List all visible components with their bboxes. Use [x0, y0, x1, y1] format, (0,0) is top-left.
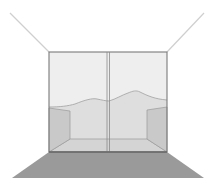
perspective-line-right	[167, 13, 204, 52]
ground-plane	[12, 152, 204, 178]
perspective-line-left	[10, 13, 49, 52]
room-illustration	[0, 0, 214, 187]
